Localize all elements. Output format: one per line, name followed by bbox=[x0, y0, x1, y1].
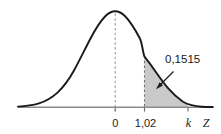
axis-tick-label-k-value: k bbox=[186, 116, 192, 130]
axis-variable-label: Z bbox=[203, 116, 210, 130]
normal-distribution-figure: 0,1515 0 1,02 k Z bbox=[0, 0, 221, 134]
distribution-chart-svg: 0,1515 0 1,02 k Z bbox=[0, 0, 221, 134]
axis-tick-label-z-value: 1,02 bbox=[135, 117, 156, 129]
axis-tick-label-zero: 0 bbox=[112, 117, 118, 129]
area-probability-label: 0,1515 bbox=[165, 53, 200, 65]
